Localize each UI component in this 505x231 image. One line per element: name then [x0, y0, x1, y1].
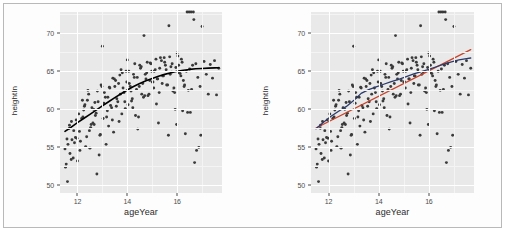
data-point [409, 91, 412, 94]
data-point [205, 73, 208, 76]
data-point [163, 61, 166, 64]
data-point [463, 77, 466, 80]
data-point [461, 63, 464, 66]
gridline-major-horizontal [60, 33, 222, 34]
data-point [364, 77, 367, 80]
figure-root: 5055606570121416 heightIn ageYear 505560… [0, 0, 505, 231]
data-point [410, 67, 413, 70]
gridline-major-vertical [177, 12, 178, 193]
data-point [181, 61, 184, 64]
gridline-minor-vertical [202, 12, 203, 193]
data-point [112, 131, 115, 134]
gridline-major-horizontal [311, 109, 474, 110]
gridline-major-vertical [379, 12, 380, 193]
data-point [93, 101, 96, 104]
gridline-major-horizontal [311, 185, 474, 186]
gridline-major-horizontal [60, 185, 222, 186]
gridline-major-horizontal [311, 147, 474, 148]
data-point [171, 62, 174, 65]
data-point [117, 82, 120, 85]
data-point [207, 93, 210, 96]
y-tick-mark [308, 71, 311, 72]
data-point [339, 129, 342, 132]
data-point [67, 143, 70, 146]
data-point [192, 11, 195, 14]
data-point [450, 85, 453, 88]
data-point [367, 97, 370, 100]
data-point [389, 116, 392, 119]
y-tick-label: 65 [47, 68, 54, 75]
data-point [105, 116, 108, 119]
data-point [215, 93, 218, 96]
y-tick-label: 50 [47, 182, 54, 189]
data-point [384, 76, 387, 79]
gridline-minor-horizontal [60, 14, 222, 15]
data-point [431, 74, 434, 77]
data-point [370, 74, 373, 77]
data-point [86, 99, 89, 102]
data-point [418, 84, 421, 87]
data-point [118, 120, 121, 123]
data-point [189, 111, 192, 114]
data-point [316, 163, 319, 166]
data-point [167, 24, 170, 27]
data-point [168, 55, 171, 58]
data-point [211, 77, 214, 80]
data-point [94, 114, 97, 117]
y-tick-label: 70 [298, 30, 305, 37]
data-point [465, 59, 468, 62]
data-point [435, 84, 438, 87]
data-point [393, 82, 396, 85]
data-point [420, 55, 423, 58]
data-point [332, 99, 335, 102]
data-point [324, 141, 327, 144]
data-point [158, 91, 161, 94]
gridline-minor-vertical [454, 12, 455, 193]
data-point [409, 122, 412, 125]
gridline-major-vertical [429, 12, 430, 193]
data-point [116, 100, 119, 103]
data-point [163, 56, 166, 59]
data-point [337, 99, 340, 102]
data-point [169, 65, 172, 68]
y-tick-mark [57, 33, 60, 34]
data-point [338, 93, 341, 96]
data-point [469, 67, 472, 70]
data-point [172, 87, 175, 90]
gridline-major-vertical [329, 12, 330, 193]
data-point [138, 85, 141, 88]
data-point [374, 91, 377, 94]
x-tick-mark [127, 193, 128, 196]
right-y-axis-title: heightIn [261, 71, 270, 131]
data-point [140, 65, 143, 68]
gridline-major-horizontal [60, 147, 222, 148]
data-point [72, 129, 75, 132]
x-tick-label: 16 [173, 198, 180, 205]
data-point [345, 114, 348, 117]
gridline-minor-vertical [102, 12, 103, 193]
data-point [330, 149, 333, 152]
data-point [120, 112, 123, 115]
data-point [362, 119, 365, 122]
data-point [166, 84, 169, 87]
data-point [320, 152, 323, 155]
data-point [184, 132, 187, 135]
x-tick-mark [77, 193, 78, 196]
data-point [133, 62, 136, 65]
data-point [133, 76, 136, 79]
x-tick-mark [428, 193, 429, 196]
data-point [157, 122, 160, 125]
data-point [72, 157, 75, 160]
data-point [83, 103, 86, 106]
data-point [137, 116, 140, 119]
data-point [90, 123, 93, 126]
y-tick-mark [57, 147, 60, 148]
x-tick-mark [378, 193, 379, 196]
data-point [146, 61, 149, 64]
data-point [335, 103, 338, 106]
data-point [425, 91, 428, 94]
data-point [372, 112, 375, 115]
y-tick-mark [308, 33, 311, 34]
data-point [399, 93, 402, 96]
data-point [122, 87, 125, 90]
